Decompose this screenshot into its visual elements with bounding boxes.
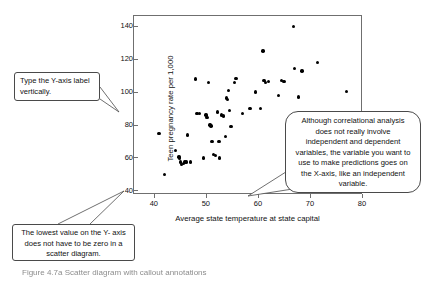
scatter-point [345, 90, 348, 93]
scatter-point [228, 109, 231, 112]
callout-xaxis-note: Although correlational analysis does not… [285, 111, 421, 193]
scatter-point [209, 124, 212, 127]
y-tick: 120 [96, 55, 133, 63]
y-tick: 40 [96, 187, 133, 195]
scatter-point [267, 80, 270, 83]
scatter-point [316, 61, 319, 64]
scatter-point [293, 67, 296, 70]
x-tick-label: 60 [243, 200, 273, 208]
scatter-point [185, 160, 188, 163]
x-tick-mark [206, 194, 207, 198]
callout-lowest-value: The lowest value on the Y- axis does not… [12, 224, 135, 261]
scatter-point [202, 156, 205, 159]
scatter-point [222, 114, 225, 117]
scatter-point [210, 140, 213, 143]
x-tick: 40 [139, 194, 169, 208]
x-tick: 50 [191, 194, 221, 208]
y-tick: 80 [96, 121, 133, 129]
y-tick-label: 80 [107, 121, 133, 129]
x-tick-label: 80 [347, 200, 377, 208]
scatter-point [292, 25, 295, 28]
x-tick-label: 40 [139, 200, 169, 208]
x-tick-mark [310, 194, 311, 198]
scatter-point [277, 94, 280, 97]
scatter-point [261, 49, 264, 52]
scatter-point [224, 135, 227, 138]
x-axis-title: Average state temperature at state capit… [133, 214, 362, 223]
x-tick-label: 50 [191, 200, 221, 208]
scatter-point [205, 116, 208, 119]
figure-caption: Figure 4.7a Scatter diagram with callout… [22, 268, 422, 277]
scatter-point [282, 80, 285, 83]
scatter-point [227, 89, 230, 92]
y-tick-label: 40 [107, 187, 133, 195]
scatter-point [259, 107, 262, 110]
x-tick: 60 [243, 194, 273, 208]
scatter-point [234, 77, 237, 80]
scatter-point [207, 81, 210, 84]
y-tick-label: 140 [107, 22, 133, 30]
scatter-point [217, 140, 220, 143]
scatter-point [216, 110, 219, 113]
scatter-point [226, 98, 229, 101]
scatter-point [194, 77, 197, 80]
x-tick-mark [154, 194, 155, 198]
scatter-point [254, 90, 257, 93]
scatter-point [297, 95, 300, 98]
scatter-point [157, 132, 160, 135]
x-tick: 80 [347, 194, 377, 208]
figure-container: 406080100120140 4050607080 Average state… [0, 0, 433, 282]
scatter-point [233, 81, 236, 84]
y-tick: 140 [96, 22, 133, 30]
x-tick-label: 70 [295, 200, 325, 208]
scatter-point [218, 156, 221, 159]
y-tick-label: 60 [107, 154, 133, 162]
scatter-point [248, 107, 251, 110]
y-tick-label: 100 [107, 88, 133, 96]
scatter-point [189, 160, 192, 163]
y-tick-label: 120 [107, 55, 133, 63]
x-tick-mark [258, 194, 259, 198]
scatter-point [186, 133, 189, 136]
y-tick: 60 [96, 154, 133, 162]
callout-yaxis-label: Type the Y-axis label vertically. [14, 72, 100, 101]
scatter-point [214, 154, 217, 157]
scatter-point [229, 125, 232, 128]
y-axis-title: Teen pregnancy rate per 1,000 [166, 14, 175, 204]
scatter-point [198, 112, 201, 115]
x-tick: 70 [295, 194, 325, 208]
x-tick-mark [362, 194, 363, 198]
y-tick: 100 [96, 88, 133, 96]
scatter-point [300, 69, 303, 72]
scatter-point [241, 112, 244, 115]
